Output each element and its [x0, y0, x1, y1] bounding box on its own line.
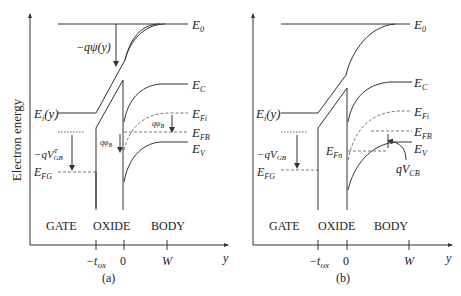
panel-b-tick-label-W: W — [404, 254, 415, 268]
panel-a-EFB-label: EFB — [191, 125, 210, 142]
panel-a-region-oxide: OXIDE — [93, 219, 130, 233]
y-axis-label: Electron energy — [9, 98, 24, 181]
panel-b-vcb-arrow-icon — [390, 141, 406, 160]
panel-a-phiB-left-label: qφB — [100, 138, 112, 148]
panel-b-caption: (b) — [336, 271, 350, 285]
panel-a-region-body: BODY — [151, 219, 185, 233]
panel-b-region-oxide: OXIDE — [318, 219, 355, 233]
panel-a-E0-bend — [125, 24, 165, 60]
panel-a-Ei-curve — [58, 60, 125, 113]
panel-b-tick-label-tox: −tox — [309, 254, 329, 270]
panel-b-EC-label: EC — [413, 75, 428, 92]
panel-b-tick-label-zero: 0 — [343, 254, 349, 268]
panel-a-tick-label-zero: 0 — [120, 254, 126, 268]
panel-a-caption: (a) — [102, 271, 115, 285]
panel-b-E0-bend — [346, 24, 395, 75]
panel-b-EFB-label: EFB — [413, 124, 432, 141]
panel-b-EV-label: EV — [413, 141, 428, 158]
panel-b-x-label: y — [445, 251, 452, 265]
panel-a-EFi-label: EFi — [191, 106, 207, 123]
panel-a-EC-label: EC — [191, 77, 206, 94]
panel-a-phiB-label: qφB — [152, 119, 164, 129]
panel-a: y E0 EC EFi EFB EV Ei(y) EFG — [28, 13, 229, 285]
panel-a-tick-label-W: W — [162, 254, 173, 268]
panel-b-vgb-label: −qVGB — [257, 148, 287, 162]
panel-b: y E0 EC EFi EFB EV Ei(y) EFG EFn −qVGB q… — [251, 13, 453, 285]
panel-a-x-label: y — [222, 251, 229, 265]
panel-b-Ei-curve — [281, 75, 346, 113]
panel-b-EFG-label: EFG — [256, 165, 275, 181]
panel-a-vgb-label: −qVTGB — [34, 147, 64, 162]
panel-a-tick-label-tox: −tox — [86, 254, 106, 270]
panel-a-EC-curve — [124, 84, 188, 122]
panel-b-EC-curve — [348, 82, 412, 122]
panel-b-EFi-label: EFi — [413, 104, 429, 121]
panel-a-x-axis-arrow-icon — [224, 243, 229, 247]
panel-a-region-gate: GATE — [46, 219, 77, 233]
panel-b-y-axis-arrow-icon — [251, 13, 255, 18]
panel-a-EV-label: EV — [191, 141, 206, 158]
panel-b-Ei-label: Ei(y) — [255, 106, 281, 123]
panel-b-EFi-curve — [348, 111, 412, 160]
panel-a-EFG-label: EFG — [33, 165, 52, 181]
panel-b-E0-label: E0 — [413, 17, 426, 34]
panel-a-psi-label: −qψ(y) — [76, 40, 111, 54]
panel-b-region-gate: GATE — [269, 219, 300, 233]
panel-b-x-axis-arrow-icon — [448, 243, 453, 247]
panel-a-E0-label: E0 — [191, 17, 204, 34]
panel-b-region-body: BODY — [374, 219, 408, 233]
panel-b-EFn-label: EFn — [325, 144, 342, 160]
panel-b-vcb-label: qVCB — [396, 162, 420, 178]
panel-a-Ei-label: Ei(y) — [33, 106, 59, 123]
panel-a-y-axis-arrow-icon — [28, 13, 32, 18]
panel-a-EV-curve — [124, 142, 188, 182]
band-diagram: Electron energy y — [0, 0, 461, 296]
